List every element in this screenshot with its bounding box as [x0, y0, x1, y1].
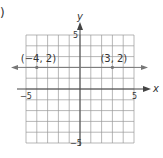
x-axis-arrow-icon: [143, 86, 151, 92]
graph-svg: (−4, 2)(3, 2) xy−555−5: [0, 0, 163, 158]
y-tick-label: −5: [70, 139, 82, 148]
y-axis-arrow-icon: [77, 22, 83, 30]
x-axis-label: x: [152, 83, 159, 94]
y-axis-label: y: [76, 11, 84, 22]
plotted-points: (−4, 2)(3, 2): [21, 53, 128, 69]
point-label: (−4, 2): [21, 53, 56, 64]
coordinate-graph: ) (−4, 2)(3, 2) xy−555−5: [0, 0, 163, 158]
line-right-arrow-icon: [141, 65, 148, 70]
line-left-arrow-icon: [11, 65, 18, 70]
x-tick-label: 5: [132, 92, 137, 101]
axis-labels: xy−555−5: [20, 11, 159, 148]
point-marker: [111, 66, 114, 69]
part-label: ): [0, 6, 5, 20]
point-label: (3, 2): [100, 53, 127, 64]
x-tick-label: −5: [20, 92, 32, 101]
y-tick-label: 5: [73, 31, 78, 40]
point-marker: [35, 66, 38, 69]
